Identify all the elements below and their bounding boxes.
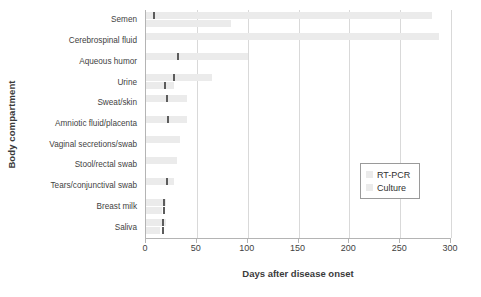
y-axis-category-label: Sweat/skin	[22, 98, 137, 108]
bar-rtpcr	[146, 12, 432, 19]
y-axis-category-label: Tears/conjunctival swab	[22, 181, 137, 191]
y-axis-category-label: Stool/rectal swab	[22, 160, 137, 170]
legend-swatch-icon	[366, 184, 373, 191]
x-axis-tick-label: 250	[392, 243, 407, 253]
bar-culture	[146, 82, 174, 89]
y-axis-category-label: Amniotic fluid/placenta	[22, 119, 137, 129]
gridline	[451, 10, 452, 238]
bar-rtpcr	[146, 136, 180, 143]
y-axis-category-label: Cerebrospinal fluid	[22, 36, 137, 46]
y-axis-title: Body compartment	[0, 0, 22, 248]
x-axis-tick-label: 200	[341, 243, 356, 253]
legend-label: RT-PCR	[377, 170, 410, 180]
legend-item: RT-PCR	[366, 168, 410, 181]
x-axis-tick-label: 100	[239, 243, 254, 253]
chart-legend: RT-PCRCulture	[360, 163, 420, 199]
x-axis-tick-label: 0	[142, 243, 147, 253]
bar-median-marker	[162, 219, 164, 226]
bar-rtpcr	[146, 116, 187, 123]
bar-culture	[146, 227, 160, 234]
gridline	[248, 10, 249, 238]
bar-median-marker	[164, 82, 166, 89]
y-axis-title-text: Body compartment	[6, 80, 17, 168]
x-axis-ticks: 050100150200250300	[145, 239, 451, 255]
plot-area	[145, 10, 451, 239]
bar-median-marker	[162, 227, 164, 234]
gridline	[299, 10, 300, 238]
y-axis-category-labels: SemenCerebrospinal fluidAqueous humorUri…	[22, 10, 141, 238]
bar-chart: Body compartment SemenCerebrospinal flui…	[0, 0, 481, 297]
bar-median-marker	[163, 199, 165, 206]
bar-rtpcr	[146, 178, 174, 185]
bar-median-marker	[177, 53, 179, 60]
bar-culture	[146, 20, 231, 27]
y-axis-category-label: Urine	[22, 78, 137, 88]
bar-rtpcr	[146, 33, 439, 40]
y-axis-category-label: Semen	[22, 15, 137, 25]
bar-rtpcr	[146, 157, 177, 164]
bar-culture	[146, 207, 162, 214]
bar-median-marker	[166, 95, 168, 102]
bar-median-marker	[173, 74, 175, 81]
gridline	[349, 10, 350, 238]
bar-median-marker	[166, 178, 168, 185]
y-axis-category-label: Vaginal secretions/swab	[22, 140, 137, 150]
legend-item: Culture	[366, 181, 410, 194]
legend-label: Culture	[377, 183, 406, 193]
x-axis-title: Days after disease onset	[145, 268, 451, 279]
bar-rtpcr	[146, 74, 212, 81]
bar-median-marker	[153, 12, 155, 19]
gridline	[400, 10, 401, 238]
y-axis-category-label: Saliva	[22, 223, 137, 233]
x-axis-tick-label: 150	[290, 243, 305, 253]
bar-rtpcr	[146, 53, 248, 60]
legend-swatch-icon	[366, 171, 373, 178]
bar-median-marker	[167, 116, 169, 123]
gridline	[197, 10, 198, 238]
x-axis-tick-label: 50	[191, 243, 201, 253]
y-axis-category-label: Breast milk	[22, 202, 137, 212]
bar-median-marker	[163, 207, 165, 214]
x-axis-tick-label: 300	[442, 243, 457, 253]
y-axis-category-label: Aqueous humor	[22, 57, 137, 67]
